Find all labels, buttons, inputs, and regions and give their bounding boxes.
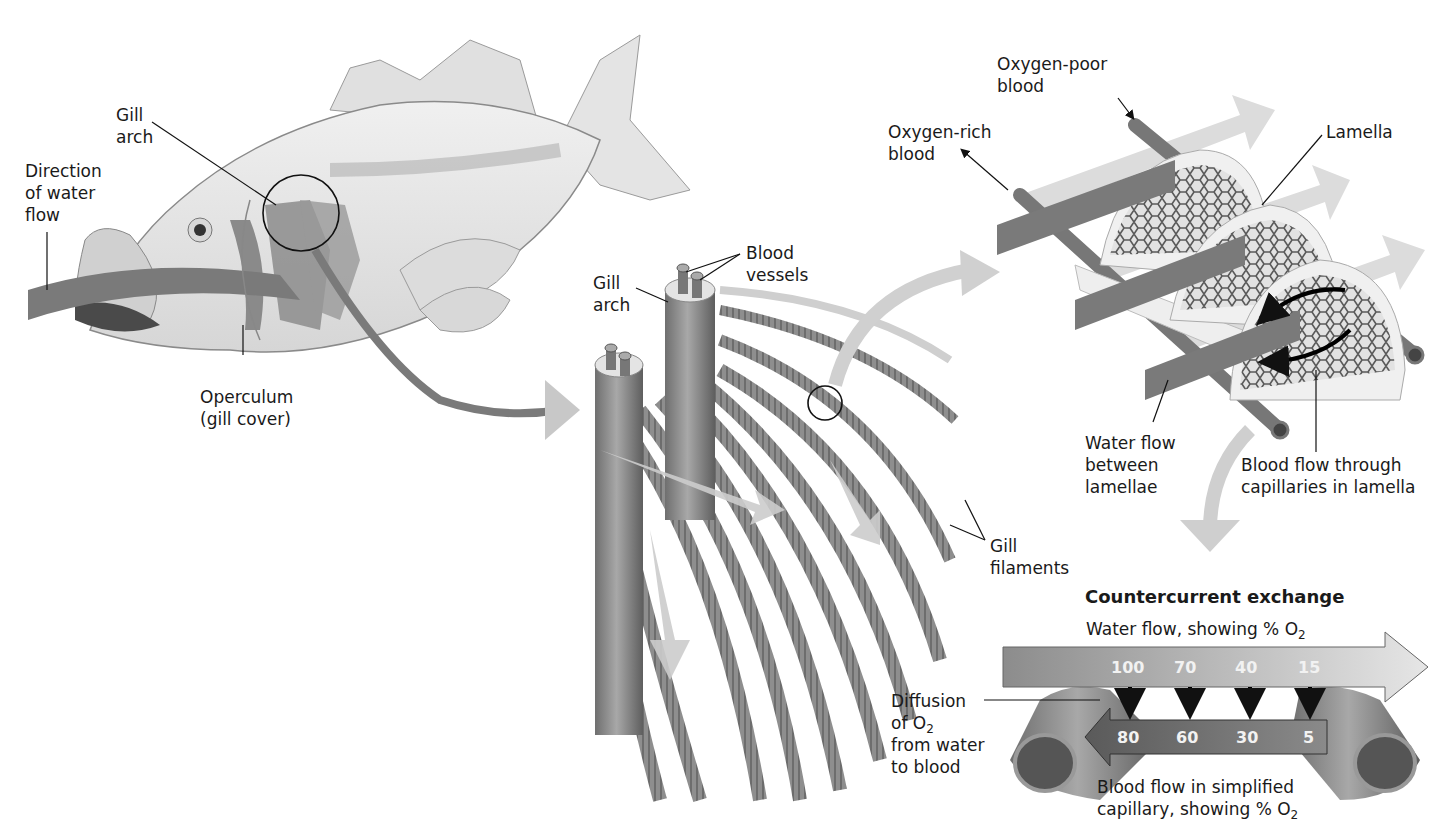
label-blood-flow-o2: Blood flow in simplified capillary, show… <box>1097 776 1298 820</box>
label-line: Oxygen-poor <box>997 53 1107 75</box>
label-line: Blood flow in simplified <box>1097 776 1298 798</box>
label-line: flow <box>25 204 102 226</box>
countercurrent-illustration <box>984 632 1428 800</box>
water-o2-value: 70 <box>1174 658 1196 677</box>
label-line: blood <box>997 75 1107 97</box>
label-blood-vessels: Blood vessels <box>746 242 808 286</box>
label-gill-filaments: Gill filaments <box>990 535 1069 579</box>
label-text: capillary, showing % O <box>1097 799 1291 819</box>
label-line: (gill cover) <box>200 408 293 430</box>
label-text: of O <box>891 713 926 733</box>
water-o2-value: 100 <box>1111 658 1144 677</box>
countercurrent-title: Countercurrent exchange <box>1085 586 1344 608</box>
label-line: Blood <box>746 242 808 264</box>
label-gill-arch-detail: Gill arch <box>593 272 630 316</box>
blood-o2-value: 80 <box>1117 728 1139 747</box>
fish-illustration <box>28 35 690 440</box>
label-line: Direction <box>25 160 102 182</box>
label-line: filaments <box>990 557 1069 579</box>
label-line: Diffusion <box>891 690 984 712</box>
label-line: Gill <box>990 535 1069 557</box>
label-line: Oxygen-rich <box>888 121 992 143</box>
label-gill-arch-fish: Gill arch <box>116 104 153 148</box>
blood-o2-value: 5 <box>1303 728 1314 747</box>
label-water-flow-o2: Water flow, showing % O2 <box>1086 618 1306 640</box>
label-oxygen-rich-blood: Oxygen-rich blood <box>888 121 992 165</box>
label-line: Gill <box>593 272 630 294</box>
label-line: arch <box>116 126 153 148</box>
label-line: of O2 <box>891 712 984 734</box>
label-lamella: Lamella <box>1326 121 1393 143</box>
label-line: Operculum <box>200 386 293 408</box>
label-line: capillary, showing % O2 <box>1097 798 1298 820</box>
blood-o2-value: 30 <box>1236 728 1258 747</box>
label-water-flow-between-lamellae: Water flow between lamellae <box>1085 432 1176 498</box>
blood-o2-value: 60 <box>1176 728 1198 747</box>
label-line: Gill <box>116 104 153 126</box>
label-line: to blood <box>891 756 984 778</box>
lamellae-illustration <box>962 95 1425 552</box>
label-oxygen-poor-blood: Oxygen-poor blood <box>997 53 1107 97</box>
label-line: lamellae <box>1085 476 1176 498</box>
label-text: Water flow, showing % O <box>1086 619 1298 639</box>
label-line: between <box>1085 454 1176 476</box>
subscript: 2 <box>1298 628 1306 642</box>
label-line: blood <box>888 143 992 165</box>
label-line: of water <box>25 182 102 204</box>
label-diffusion-o2: Diffusion of O2 from water to blood <box>891 690 984 778</box>
water-o2-value: 15 <box>1298 658 1320 677</box>
subscript: 2 <box>1291 808 1299 822</box>
label-line: Lamella <box>1326 121 1393 143</box>
label-line: arch <box>593 294 630 316</box>
label-line: from water <box>891 734 984 756</box>
label-line: vessels <box>746 264 808 286</box>
label-line: Water flow <box>1085 432 1176 454</box>
water-o2-value: 40 <box>1235 658 1257 677</box>
label-operculum: Operculum (gill cover) <box>200 386 293 430</box>
label-direction-of-water-flow: Direction of water flow <box>25 160 102 226</box>
